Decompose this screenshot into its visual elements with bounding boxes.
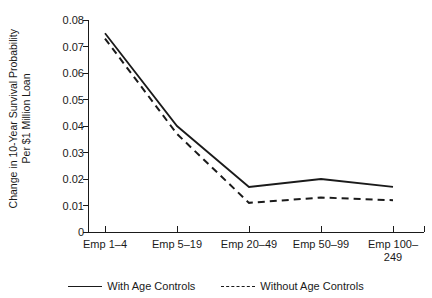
y-axis-tick-label: 0.08 <box>40 15 84 26</box>
y-axis-tick-mark <box>83 152 88 153</box>
y-axis-tick-label: 0.05 <box>40 94 84 105</box>
chart-figure: Change in 10-Year Survival Probability P… <box>0 0 432 298</box>
y-axis-tick-mark <box>83 179 88 180</box>
x-axis-end-tick-mark <box>424 226 425 232</box>
x-axis-tick-mark <box>321 226 322 232</box>
legend-swatch-dashed <box>221 286 255 287</box>
y-axis-tick-label: 0.01 <box>40 200 84 211</box>
legend-item-1: With Age Controls <box>68 281 195 292</box>
legend-item-2: Without Age Controls <box>221 281 363 292</box>
y-axis-tick-mark <box>83 46 88 47</box>
y-axis-tick-mark <box>83 73 88 74</box>
series-line-1 <box>105 33 393 187</box>
legend-label: Without Age Controls <box>260 281 363 292</box>
series-line-2 <box>105 39 393 203</box>
y-axis-title-text: Change in 10-Year Survival Probability P… <box>7 29 33 208</box>
y-axis-tick-mark <box>83 126 88 127</box>
legend-label: With Age Controls <box>107 281 195 292</box>
chart-legend: With Age ControlsWithout Age Controls <box>0 276 432 296</box>
y-axis-tick-mark <box>83 232 88 233</box>
y-axis-title: Change in 10-Year Survival Probability P… <box>2 0 38 238</box>
y-axis-tick-mark <box>83 205 88 206</box>
x-axis-tick-mark <box>177 226 178 232</box>
x-axis-tick-labels: Emp 1–4Emp 5–19Emp 20–49Emp 50–99Emp 100… <box>60 238 432 274</box>
y-axis-tick-label: 0.02 <box>40 174 84 185</box>
x-axis-tick-label: Emp 100– 249 <box>348 238 432 264</box>
legend-swatch-solid <box>68 286 102 287</box>
x-axis-tick-mark <box>249 226 250 232</box>
x-axis-tick-mark <box>393 226 394 232</box>
y-axis-tick-label: 0.07 <box>40 41 84 52</box>
x-axis-tick-mark <box>105 226 106 232</box>
y-axis-tick-mark <box>83 99 88 100</box>
series-lines <box>88 20 388 232</box>
y-axis-tick-label: 0 <box>40 227 84 238</box>
plot-area <box>88 20 388 232</box>
x-axis-line <box>88 232 424 233</box>
y-axis-tick-mark <box>83 20 88 21</box>
y-axis-tick-label: 0.03 <box>40 147 84 158</box>
y-axis-tick-label: 0.06 <box>40 68 84 79</box>
y-axis-tick-label: 0.04 <box>40 121 84 132</box>
